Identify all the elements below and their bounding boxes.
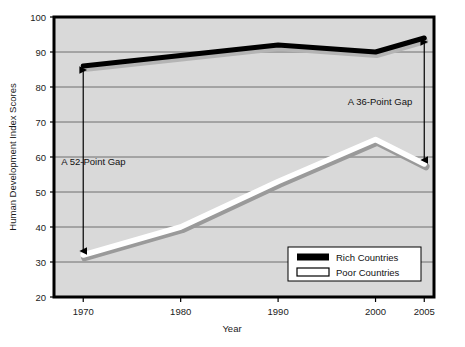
gap-annotation-label: A 36-Point Gap <box>348 96 412 107</box>
y-tick-label: 60 <box>35 152 46 163</box>
y-tick-label: 90 <box>35 47 46 58</box>
x-tick-label: 1990 <box>268 306 289 317</box>
y-tick-label: 40 <box>35 222 46 233</box>
gap-annotation-label: A 52-Point Gap <box>61 156 125 167</box>
y-axis-title: Human Development Index Scores <box>7 83 18 231</box>
legend-label: Rich Countries <box>336 252 399 263</box>
x-axis-title: Year <box>222 323 241 334</box>
y-tick-label: 20 <box>35 292 46 303</box>
y-tick-label: 100 <box>30 12 46 23</box>
y-axis-ticks: 2030405060708090100 <box>30 12 54 303</box>
y-tick-label: 80 <box>35 82 46 93</box>
legend-label: Poor Countries <box>336 267 400 278</box>
y-tick-label: 70 <box>35 117 46 128</box>
legend-swatch-poor <box>297 268 329 276</box>
x-tick-label: 2005 <box>414 306 435 317</box>
chart-canvas: 2030405060708090100 19701980199020002005… <box>0 0 465 347</box>
x-tick-label: 1980 <box>170 306 191 317</box>
hdi-line-chart: 2030405060708090100 19701980199020002005… <box>0 0 465 347</box>
legend-swatch-rich <box>297 254 329 261</box>
y-tick-label: 30 <box>35 257 46 268</box>
x-axis-ticks: 19701980199020002005 <box>73 297 435 317</box>
y-tick-label: 50 <box>35 187 46 198</box>
chart-legend: Rich CountriesPoor Countries <box>288 247 421 281</box>
x-tick-label: 1970 <box>73 306 94 317</box>
x-tick-label: 2000 <box>365 306 386 317</box>
